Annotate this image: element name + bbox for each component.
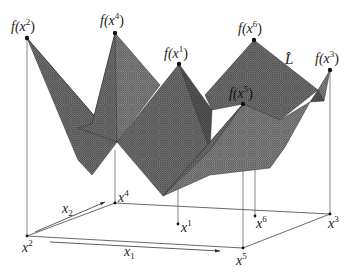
- axis-label-x2: x2: [62, 202, 73, 218]
- label-x2: x2: [22, 239, 33, 255]
- point-fx5: [241, 102, 245, 106]
- base-x1: [177, 223, 180, 226]
- point-fx3: [328, 68, 332, 72]
- point-fx4: [113, 31, 117, 35]
- label-x6: x6: [256, 215, 267, 231]
- surface-diagram: [0, 0, 354, 275]
- label-f-x1: f(x1): [164, 45, 188, 61]
- axis-label-x1: x1: [124, 245, 135, 261]
- point-fx6: [252, 38, 256, 42]
- base-x2: [26, 235, 29, 238]
- label-f-x3: f(x3): [315, 50, 339, 66]
- label-f-x5: f(x5): [229, 85, 253, 101]
- base-x4: [114, 202, 117, 205]
- label-x1: x1: [181, 219, 192, 235]
- label-f-x2: f(x2): [11, 18, 35, 34]
- point-fx2: [25, 36, 29, 40]
- label-x5: x5: [236, 252, 247, 268]
- label-surface-L-hat: L̂: [285, 52, 293, 67]
- label-x3: x3: [328, 215, 339, 231]
- x1-axis-arrow: [50, 242, 220, 251]
- base-x5: [242, 247, 245, 250]
- point-fx1: [177, 62, 181, 66]
- label-f-x6: f(x6): [238, 20, 262, 36]
- label-f-x4: f(x4): [100, 12, 124, 28]
- label-x4: x4: [118, 189, 129, 205]
